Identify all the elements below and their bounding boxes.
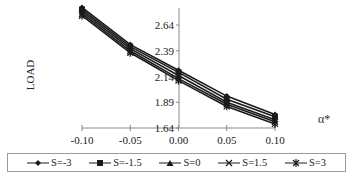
chart-legend: S=-3 S=-1.5 S=0 S=1.5 S=3 [7,153,346,172]
square-marker-icon [89,159,111,167]
star-marker-icon [285,159,307,167]
x-marker-icon [218,159,240,167]
x-tick-label: -0.10 [71,134,94,146]
legend-item-s-neg3: S=-3 [27,157,72,168]
y-tick-label: 1.89 [155,96,175,108]
y-tick-label: 2.39 [155,45,175,57]
y-tick-label: 1.64 [155,122,175,134]
legend-label: S=3 [309,157,326,168]
triangle-marker-icon [159,159,181,167]
legend-item-s-3: S=3 [285,157,326,168]
x-tick-label: 0.05 [217,134,237,146]
legend-item-s-1-5: S=1.5 [218,157,267,168]
x-tick-label: -0.05 [119,134,142,146]
x-tick-label: 0.00 [169,134,189,146]
x-tick-label: 0.10 [265,134,285,146]
legend-label: S=-1.5 [113,157,141,168]
y-tick-label: 2.64 [155,19,175,31]
legend-item-s-0: S=0 [159,157,200,168]
y-axis-label: LOAD [24,60,36,91]
legend-label: S=1.5 [242,157,267,168]
legend-item-s-neg1-5: S=-1.5 [89,157,141,168]
legend-label: S=0 [183,157,200,168]
x-axis-label: α* [318,112,330,126]
diamond-marker-icon [27,159,49,167]
line-chart: -0.10-0.050.000.050.101.641.892.142.392.… [0,0,359,150]
legend-label: S=-3 [51,157,72,168]
